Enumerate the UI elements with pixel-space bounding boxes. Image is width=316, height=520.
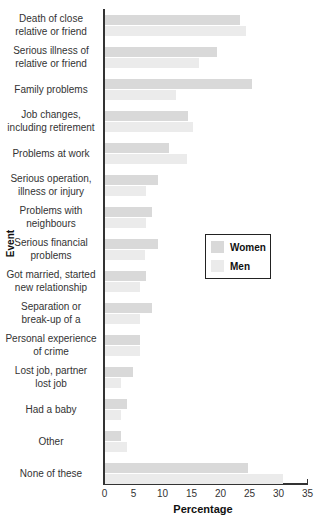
legend-swatch-women: [211, 241, 224, 253]
x-tick-label: 0: [102, 488, 108, 499]
bar-women: [105, 303, 152, 313]
bar-women: [105, 143, 169, 153]
legend-item-women: Women: [211, 241, 266, 253]
bar-men: [105, 154, 187, 164]
bar-women: [105, 175, 158, 185]
x-tick-label: 10: [157, 488, 168, 499]
category-label: Got married, startednew relationship: [4, 268, 98, 294]
category-label: Separation orbreak-up of a: [4, 300, 98, 326]
category-label: Serious operation,illness or injury: [4, 172, 98, 198]
category-label: Serious illness ofrelative or friend: [4, 44, 98, 70]
legend-item-men: Men: [211, 260, 250, 272]
category-label: Other: [4, 435, 98, 448]
x-axis-label: Percentage: [148, 503, 258, 515]
category-label: Death of closerelative or friend: [4, 12, 98, 38]
legend-label-women: Women: [230, 242, 266, 253]
bar-men: [105, 90, 176, 100]
legend-label-men: Men: [230, 261, 250, 272]
category-label: Personal experienceof crime: [4, 332, 98, 358]
bar-men: [105, 282, 140, 292]
bar-men: [105, 250, 145, 260]
x-tick-label: 25: [244, 488, 255, 499]
bar-men: [105, 218, 146, 228]
bar-men: [105, 378, 121, 388]
category-label: Problems withneighbours: [4, 204, 98, 230]
bar-men: [105, 122, 193, 132]
bar-men: [105, 346, 140, 356]
x-tick-label: 20: [215, 488, 226, 499]
bar-men: [105, 58, 199, 68]
bar-men: [105, 26, 246, 36]
category-label: Serious financialproblems: [4, 236, 98, 262]
bar-women: [105, 15, 240, 25]
bar-women: [105, 463, 248, 473]
bar-women: [105, 335, 140, 345]
x-tick-label: 15: [186, 488, 197, 499]
x-tick-label: 35: [302, 488, 313, 499]
category-label: Job changes,including retirement: [4, 108, 98, 134]
bar-men: [105, 442, 127, 452]
bar-women: [105, 79, 252, 89]
bar-men: [105, 474, 283, 484]
x-tick-label: 30: [273, 488, 284, 499]
category-label: Lost job, partnerlost job: [4, 364, 98, 390]
bar-women: [105, 271, 146, 281]
bar-women: [105, 399, 127, 409]
x-tick: [307, 479, 308, 484]
category-label: Family problems: [4, 83, 98, 96]
category-label: Had a baby: [4, 403, 98, 416]
bar-women: [105, 207, 152, 217]
bar-women: [105, 47, 217, 57]
bar-men: [105, 410, 121, 420]
bar-women: [105, 431, 121, 441]
legend-swatch-men: [211, 260, 224, 272]
legend: Women Men: [205, 234, 271, 279]
category-label: None of these: [4, 467, 98, 480]
bar-men: [105, 186, 146, 196]
bar-women: [105, 239, 158, 249]
bar-women: [105, 111, 188, 121]
bar-men: [105, 314, 140, 324]
bar-women: [105, 367, 133, 377]
category-label: Problems at work: [4, 147, 98, 160]
x-tick-label: 5: [131, 488, 137, 499]
